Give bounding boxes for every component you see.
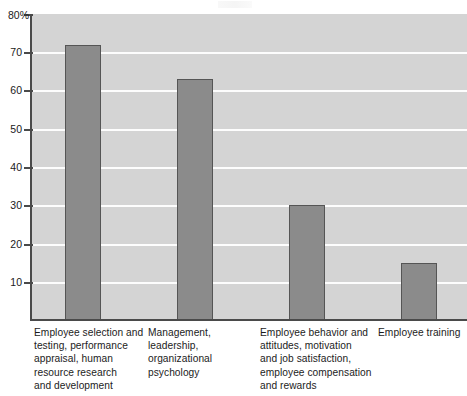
bar-employee-selection[interactable] bbox=[65, 45, 101, 320]
x-category-label-2-line-1: Management, leadership, bbox=[148, 326, 262, 352]
y-tick-label-70: 70 bbox=[0, 46, 22, 58]
y-tick-60 bbox=[24, 90, 33, 92]
x-category-label-3-line-2: attitudes, motivation bbox=[260, 339, 374, 352]
bar-employee-behavior[interactable] bbox=[289, 205, 325, 320]
x-category-label-3-line-1: Employee behavior and bbox=[260, 326, 374, 339]
plot-area bbox=[31, 14, 467, 320]
y-tick-label-30: 30 bbox=[0, 199, 22, 211]
y-tick-label-10: 10 bbox=[0, 276, 22, 288]
y-tick-10 bbox=[24, 282, 33, 284]
x-category-label-3: Employee behavior and attitudes, motivat… bbox=[260, 326, 374, 392]
x-category-label-2-line-3: psychology bbox=[148, 366, 262, 379]
x-axis-line bbox=[31, 319, 467, 321]
y-tick-label-80: 80% bbox=[0, 9, 29, 21]
y-tick-label-20: 20 bbox=[0, 238, 22, 250]
x-category-label-1-line-5: and development bbox=[34, 379, 146, 392]
x-category-label-2: Management, leadership, organizational p… bbox=[148, 326, 262, 379]
x-category-label-2-line-2: organizational bbox=[148, 352, 262, 365]
y-tick-50 bbox=[24, 129, 33, 131]
x-category-label-1-line-1: Employee selection and bbox=[34, 326, 146, 339]
x-category-label-3-line-5: and rewards bbox=[260, 379, 374, 392]
x-category-label-3-line-3: and job satisfaction, bbox=[260, 352, 374, 365]
x-category-label-1-line-2: testing, performance bbox=[34, 339, 146, 352]
bar-chart: 80% 70 60 50 40 30 20 10 Employee select… bbox=[0, 0, 467, 396]
x-category-label-1-line-3: appraisal, human bbox=[34, 352, 146, 365]
bar-employee-training[interactable] bbox=[401, 263, 437, 320]
page-artifact bbox=[218, 1, 252, 8]
y-tick-20 bbox=[24, 244, 33, 246]
bar-management-leadership[interactable] bbox=[177, 79, 213, 320]
x-category-label-4: Employee training bbox=[378, 326, 467, 339]
y-tick-label-40: 40 bbox=[0, 161, 22, 173]
y-tick-70 bbox=[24, 52, 33, 54]
y-tick-label-50: 50 bbox=[0, 123, 22, 135]
x-category-label-4-line-1: Employee training bbox=[378, 326, 467, 339]
y-tick-40 bbox=[24, 167, 33, 169]
x-category-label-1-line-4: resource research bbox=[34, 366, 146, 379]
x-category-label-3-line-4: employee compensation bbox=[260, 366, 374, 379]
x-category-label-1: Employee selection and testing, performa… bbox=[34, 326, 146, 392]
y-tick-30 bbox=[24, 205, 33, 207]
y-tick-label-60: 60 bbox=[0, 84, 22, 96]
